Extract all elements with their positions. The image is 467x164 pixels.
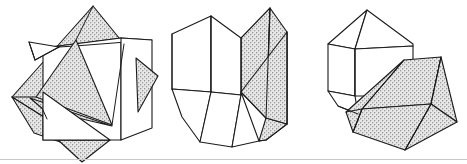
- plate-baseline-rule: [0, 159, 467, 160]
- face-light-block-left: [328, 44, 355, 96]
- face-light-left-prism-centre: [211, 16, 241, 95]
- figure-a-container: [0, 0, 160, 164]
- figure-c-container: [310, 0, 467, 164]
- figure-a-interpenetrant-twin: [0, 0, 160, 164]
- figure-c-penetration-twin-block: [310, 0, 467, 164]
- figure-b-container: [160, 0, 310, 164]
- figure-b-contact-twin-prism: [160, 0, 310, 164]
- figure-plate: [0, 0, 467, 164]
- face-light-left-prism-left: [172, 16, 211, 92]
